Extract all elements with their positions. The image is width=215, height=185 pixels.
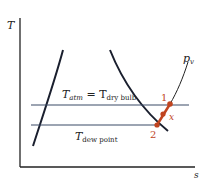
- saturated-liquid-curve: [33, 50, 63, 146]
- state-point-1: [167, 101, 173, 107]
- x-axis-label: s: [194, 170, 199, 180]
- point-x-label: x: [169, 112, 174, 122]
- state-point-2: [154, 122, 159, 127]
- saturated-vapor-curve: [110, 50, 168, 131]
- t-atm-label: Tatm = Tdry bulb: [62, 88, 137, 102]
- y-axis-label: T: [7, 19, 16, 32]
- t-dew-label: Tdew point: [75, 130, 118, 144]
- vapor-pressure-curve: [170, 62, 188, 104]
- point-2-label: 2: [150, 129, 156, 140]
- point-1-label: 1: [161, 92, 167, 103]
- state-point-x: [160, 111, 165, 116]
- pv-label: pv: [183, 52, 194, 66]
- t-s-diagram: T s pv Tatm = Tdry bulb Tdew point 1 x 2: [0, 0, 215, 185]
